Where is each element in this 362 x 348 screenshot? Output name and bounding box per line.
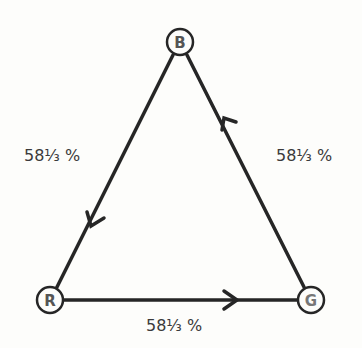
- triangle-diagram: B R G: [0, 0, 362, 348]
- edge-g-b: [187, 55, 304, 287]
- node-g-label: G: [305, 292, 317, 310]
- node-r-label: R: [44, 292, 56, 310]
- edge-b-r: [57, 55, 173, 287]
- edge-b-r-label: 58⅓ %: [24, 146, 80, 165]
- edge-r-g-label: 58⅓ %: [146, 316, 202, 335]
- node-b-label: B: [174, 34, 185, 52]
- edge-g-b-label: 58⅓ %: [276, 146, 332, 165]
- arrow-b-to-r-icon: [87, 212, 104, 226]
